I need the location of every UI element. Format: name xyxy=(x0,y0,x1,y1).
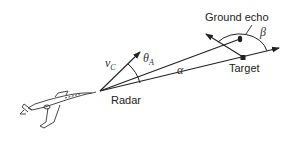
target-label: Target xyxy=(229,63,260,74)
vc-label: vC xyxy=(105,57,116,69)
beta-label: β xyxy=(260,26,266,38)
ground-echo-marker xyxy=(238,36,242,42)
ground-echo-label: Ground echo xyxy=(205,12,269,23)
theta-a-label: θA xyxy=(143,52,154,64)
echo-line-of-sight xyxy=(100,39,240,91)
ground-echo-leader xyxy=(246,25,252,34)
aircraft-icon xyxy=(20,91,96,128)
alpha-label: α xyxy=(177,64,183,76)
target-marker xyxy=(241,55,246,60)
radar-label: Radar xyxy=(111,95,141,106)
radar-geometry-diagram: Ground echo Target Radar vC θA α β xyxy=(0,0,293,142)
